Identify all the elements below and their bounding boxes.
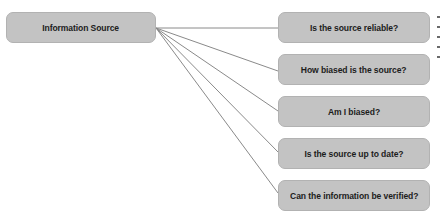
question-label: Is the source reliable? (310, 22, 398, 33)
question-label: Can the information be verified? (290, 190, 418, 201)
question-node-up-to-date: Is the source up to date? (278, 138, 430, 169)
edge-to-verified (156, 28, 278, 193)
edge-to-how-biased (156, 28, 278, 71)
question-label: Am I biased? (328, 106, 380, 117)
question-node-how-biased: How biased is the source? (278, 54, 430, 85)
edge-to-up-to-date (156, 28, 278, 152)
information-source-label: Information Source (43, 22, 120, 33)
clipped-text-fragment (436, 16, 444, 66)
question-node-am-i-biased: Am I biased? (278, 96, 430, 127)
question-node-verified: Can the information be verified? (278, 180, 430, 211)
question-label: How biased is the source? (301, 64, 407, 75)
question-label: Is the source up to date? (305, 148, 404, 159)
question-node-reliable: Is the source reliable? (278, 12, 430, 43)
information-source-node: Information Source (6, 12, 156, 43)
edge-to-am-i-biased (156, 28, 278, 111)
